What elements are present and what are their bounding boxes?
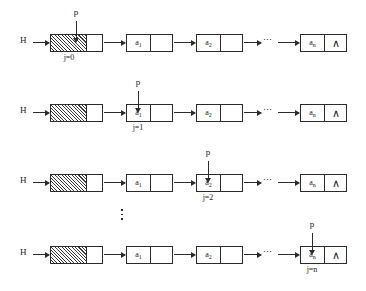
list-node-itemn: an ∧ xyxy=(300,34,347,52)
node-data-field-hatched xyxy=(51,35,86,51)
arrow-head-to-item1 xyxy=(104,254,125,255)
node-data-field-hatched xyxy=(51,247,86,263)
arrow-ellipsis-to-itemn xyxy=(278,112,299,113)
arrow-item2-to-ellipsis xyxy=(244,112,261,113)
horizontal-ellipsis: ⋯ xyxy=(263,248,273,257)
list-node-item1: a1 xyxy=(126,34,173,52)
node-data-subscript: n xyxy=(313,42,316,48)
node-next-field xyxy=(220,247,242,263)
list-node-head xyxy=(50,246,103,264)
horizontal-ellipsis: ⋯ xyxy=(263,36,273,45)
null-pointer-icon: ∧ xyxy=(332,108,340,119)
node-next-field xyxy=(150,105,172,121)
list-node-item2: a2 xyxy=(196,34,243,52)
horizontal-ellipsis: ⋯ xyxy=(263,106,273,115)
linked-list-traversal-diagram: H a1 a2 ⋯ an ∧ xyxy=(0,0,366,291)
node-data-field: a1 xyxy=(127,35,150,51)
node-data-subscript: 1 xyxy=(139,42,142,48)
node-data-subscript: 2 xyxy=(209,42,212,48)
node-data-field-hatched xyxy=(51,175,86,191)
list-row: H a1 a2 ⋯ an ∧ xyxy=(0,140,366,212)
arrow-item2-to-ellipsis xyxy=(244,254,261,255)
node-next-field xyxy=(86,105,102,121)
list-node-itemn: an ∧ xyxy=(300,246,347,264)
node-next-field xyxy=(86,175,102,191)
list-node-item1: a1 xyxy=(126,246,173,264)
ellipsis-dot xyxy=(121,209,123,211)
node-data-field-hatched xyxy=(51,105,86,121)
node-data-subscript: n xyxy=(313,182,316,188)
index-label: j=1 xyxy=(113,124,163,132)
arrow-ellipsis-to-itemn xyxy=(278,182,299,183)
node-data-subscript: 1 xyxy=(139,254,142,260)
pointer-p-arrow xyxy=(138,91,139,108)
node-next-field xyxy=(220,105,242,121)
node-next-field xyxy=(150,35,172,51)
node-next-field xyxy=(220,35,242,51)
arrow-item1-to-item2 xyxy=(174,42,195,43)
list-node-itemn: an ∧ xyxy=(300,174,347,192)
node-next-field xyxy=(150,247,172,263)
node-data-subscript: 2 xyxy=(209,254,212,260)
arrow-head-to-node xyxy=(33,112,49,113)
list-row: H a1 a2 ⋯ an ∧ xyxy=(0,212,366,284)
pointer-p-label: p xyxy=(56,8,96,17)
pointer-p-arrow xyxy=(312,233,313,250)
arrow-head-to-node xyxy=(33,254,49,255)
pointer-p-label: p xyxy=(292,220,332,229)
node-next-field xyxy=(220,175,242,191)
index-label: j=2 xyxy=(183,194,233,202)
index-label: j=0 xyxy=(44,54,94,62)
node-data-subscript: 2 xyxy=(209,112,212,118)
pointer-p-label: p xyxy=(118,78,158,87)
index-label: j=n xyxy=(287,266,337,274)
node-next-field-null: ∧ xyxy=(324,35,346,51)
list-node-item1: a1 xyxy=(126,174,173,192)
null-pointer-icon: ∧ xyxy=(332,178,340,189)
arrow-head-to-item1 xyxy=(104,182,125,183)
node-next-field xyxy=(86,247,102,263)
head-pointer-label: H xyxy=(20,36,27,45)
node-data-field: a2 xyxy=(197,35,220,51)
list-node-head xyxy=(50,104,103,122)
arrow-ellipsis-to-itemn xyxy=(278,42,299,43)
list-node-item2: a2 xyxy=(196,104,243,122)
arrow-item1-to-item2 xyxy=(174,254,195,255)
arrow-item2-to-ellipsis xyxy=(244,182,261,183)
arrow-head-to-node xyxy=(33,42,49,43)
node-next-field xyxy=(86,35,102,51)
node-data-field: an xyxy=(301,105,324,121)
horizontal-ellipsis: ⋯ xyxy=(263,176,273,185)
arrow-item1-to-item2 xyxy=(174,182,195,183)
list-node-item2: a2 xyxy=(196,174,243,192)
list-row: H a1 a2 ⋯ an ∧ xyxy=(0,70,366,142)
arrow-item2-to-ellipsis xyxy=(244,42,261,43)
node-next-field xyxy=(150,175,172,191)
pointer-p-arrow xyxy=(76,21,77,38)
list-node-itemn: an ∧ xyxy=(300,104,347,122)
node-data-field: a2 xyxy=(197,105,220,121)
node-data-field: an xyxy=(301,175,324,191)
pointer-p-arrow xyxy=(208,161,209,178)
head-pointer-label: H xyxy=(20,176,27,185)
list-node-item2: a2 xyxy=(196,246,243,264)
list-node-item1: a1 xyxy=(126,104,173,122)
arrow-head-to-item1 xyxy=(104,42,125,43)
list-node-head xyxy=(50,174,103,192)
arrow-head-to-node xyxy=(33,182,49,183)
arrow-item1-to-item2 xyxy=(174,112,195,113)
node-next-field-null: ∧ xyxy=(324,105,346,121)
node-data-field: a1 xyxy=(127,175,150,191)
head-pointer-label: H xyxy=(20,106,27,115)
arrow-head-to-item1 xyxy=(104,112,125,113)
node-next-field-null: ∧ xyxy=(324,175,346,191)
pointer-p-label: p xyxy=(188,148,228,157)
null-pointer-icon: ∧ xyxy=(332,250,340,261)
null-pointer-icon: ∧ xyxy=(332,38,340,49)
node-data-subscript: n xyxy=(313,112,316,118)
node-data-field: an xyxy=(301,35,324,51)
arrow-ellipsis-to-itemn xyxy=(278,254,299,255)
node-data-field: a2 xyxy=(197,247,220,263)
node-data-field: a1 xyxy=(127,247,150,263)
list-row: H a1 a2 ⋯ an ∧ xyxy=(0,0,366,72)
